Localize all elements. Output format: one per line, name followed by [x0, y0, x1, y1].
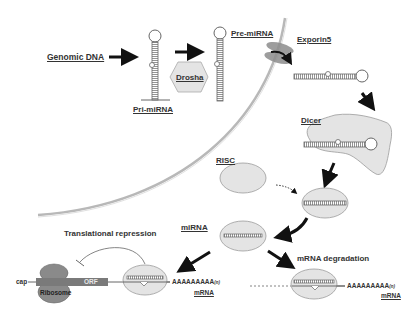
poly-a-left-suffix: (n) — [214, 280, 220, 285]
arrow-to-mirna — [282, 218, 307, 236]
arrow-risc-dotted — [276, 185, 295, 192]
label-mirna: miRNA — [181, 224, 208, 232]
label-pre-mirna: Pre-miRNA — [231, 30, 273, 38]
label-translational-repression: Translational repression — [64, 230, 156, 238]
label-genomic-dna: Genomic DNA — [47, 53, 104, 62]
label-orf: ORF — [84, 279, 98, 286]
poly-a-right-suffix: (n) — [389, 284, 395, 289]
poly-a-left-text: AAAAAAAAA — [172, 278, 214, 285]
diagram-canvas — [0, 0, 413, 320]
label-mrna-right: mRNA — [381, 293, 401, 300]
arrow-to-mrna-degradation — [268, 251, 288, 264]
exported-pre-mirna-icon — [294, 70, 368, 82]
label-dicer: Dicer — [301, 117, 321, 125]
risc-ellipse — [220, 163, 266, 193]
label-mrna-degradation: mRNA degradation — [297, 255, 369, 263]
label-poly-a-left: AAAAAAAAA(n) — [172, 279, 220, 286]
ribosome-icon — [36, 264, 76, 303]
inhibition-arc — [80, 248, 145, 264]
label-mrna-left: mRNA — [194, 290, 214, 297]
label-risc: RISC — [216, 157, 235, 165]
pre-mirna-hairpin-icon — [214, 27, 226, 101]
arrow-to-translational-repression — [184, 252, 210, 268]
mrna-bound-risc-right — [291, 269, 337, 299]
mirna-pathway-diagram: Genomic DNA Pri-miRNA Drosha Pre-miRNA E… — [0, 0, 413, 320]
label-cap: cap — [16, 279, 27, 286]
label-pri-mirna: Pri-miRNA — [133, 106, 173, 114]
label-poly-a-right: AAAAAAAAA(n) — [347, 283, 395, 290]
poly-a-right-text: AAAAAAAAA — [347, 282, 389, 289]
arrow-to-dicer — [362, 93, 370, 104]
label-drosha: Drosha — [176, 74, 204, 82]
label-ribosome: Ribosome — [40, 290, 71, 297]
pri-mirna-hairpin-icon — [141, 30, 170, 100]
exportin5-pore-icon — [263, 40, 295, 67]
label-exportin5: Exporin5 — [297, 36, 331, 44]
mrna-bound-risc-left — [123, 265, 167, 295]
arrow-dicer-to-risc — [327, 163, 334, 180]
